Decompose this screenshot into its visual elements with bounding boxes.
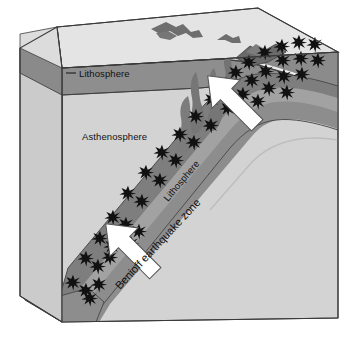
label-asthenosphere: Asthenosphere	[82, 131, 147, 142]
subduction-block-diagram: Lithosphere Asthenosphere Lithosphere Be…	[0, 0, 349, 346]
diagram-canvas: Lithosphere Asthenosphere Lithosphere Be…	[0, 0, 349, 346]
label-lithosphere-upper: Lithosphere	[79, 68, 130, 79]
